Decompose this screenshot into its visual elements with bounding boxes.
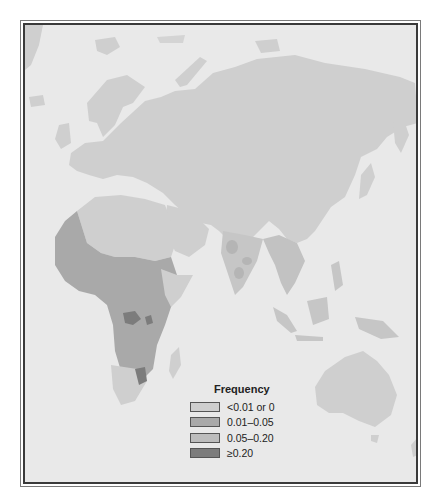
legend-item: ≥0.20 <box>190 446 350 462</box>
franz-josef <box>157 35 185 43</box>
novaya-zemlya <box>175 57 207 87</box>
legend-label: 0.01–0.05 <box>227 416 274 428</box>
philippines <box>331 261 343 291</box>
madagascar <box>169 347 181 379</box>
british-isles <box>55 123 71 149</box>
legend-swatch <box>190 433 220 443</box>
legend-label: 0.05–0.20 <box>227 432 274 444</box>
legend-swatch <box>190 402 220 412</box>
legend-label: <0.01 or 0 <box>227 401 275 413</box>
java <box>295 335 323 341</box>
legend-swatch <box>190 417 220 427</box>
map-panel: Frequency <0.01 or 0 0.01–0.05 0.05–0.20… <box>23 23 418 484</box>
svalbard <box>95 37 120 55</box>
legend-item: 0.05–0.20 <box>190 430 350 446</box>
legend-item: 0.01–0.05 <box>190 415 350 431</box>
legend-swatch <box>190 448 220 458</box>
legend-title: Frequency <box>214 383 350 395</box>
southeast-asia <box>263 235 305 295</box>
iceland <box>29 95 45 107</box>
india-spot-1 <box>226 240 238 254</box>
new-zealand <box>411 437 418 457</box>
borneo <box>307 297 329 325</box>
severnaya-zemlya <box>255 39 280 53</box>
map-frame: Frequency <0.01 or 0 0.01–0.05 0.05–0.20… <box>20 20 421 487</box>
tasmania <box>371 435 379 443</box>
legend-label: ≥0.20 <box>227 447 253 459</box>
india <box>221 231 263 295</box>
india-spot-3 <box>234 267 244 279</box>
new-guinea <box>355 317 399 339</box>
india-spot-2 <box>242 257 252 265</box>
japan <box>359 163 375 199</box>
legend: Frequency <0.01 or 0 0.01–0.05 0.05–0.20… <box>190 383 350 461</box>
greenland <box>25 25 43 70</box>
legend-item: <0.01 or 0 <box>190 399 350 415</box>
sumatra <box>273 307 297 333</box>
